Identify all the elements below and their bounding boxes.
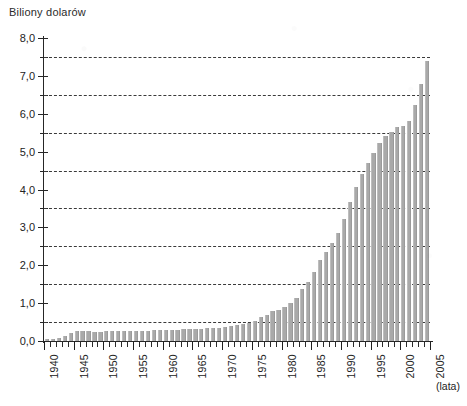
bar [110,331,114,341]
bar [377,143,381,341]
bar [330,243,334,341]
x-axis-tick-major [103,341,104,350]
bar [342,219,346,341]
x-axis-tick-minor [50,341,51,347]
x-axis-tick-minor [329,341,330,347]
x-axis-tick-major [44,341,45,350]
bar [294,298,298,341]
bar [158,330,162,341]
x-axis-tick-major [400,341,401,350]
bar [312,272,316,341]
bar [140,331,144,341]
bar [247,323,251,341]
bar [348,202,352,341]
y-axis-tick-label: 2,0 [1,259,35,271]
x-axis-tick-minor [68,341,69,347]
bar [324,252,328,341]
x-axis-tick-major [371,341,372,350]
x-axis-tick-label: 1990 [345,354,357,379]
x-axis-tick-minor [127,341,128,347]
x-axis-tick-minor [287,341,288,347]
x-axis-tick-minor [276,341,277,347]
x-axis-tick-label: 1995 [375,354,387,379]
bar [229,326,233,341]
x-axis-tick-minor [234,341,235,347]
x-axis-tick-minor [270,341,271,347]
x-axis-tick-minor [86,341,87,347]
x-axis-tick-major [133,341,134,350]
bar [276,310,280,341]
x-axis-tick-minor [121,341,122,347]
x-axis-tick-minor [264,341,265,347]
y-axis-tick-label: 7,0 [1,70,35,82]
bar [175,330,179,341]
x-axis-tick-minor [169,341,170,347]
bar [205,328,209,341]
y-axis-tick-major [38,341,48,342]
bar [80,331,84,341]
x-axis-tick-minor [175,341,176,347]
bar [122,331,126,341]
bar [383,136,387,341]
bar [104,331,108,341]
x-axis-tick-minor [359,341,360,347]
x-axis-tick-label: 1940 [48,354,60,379]
plot-area [44,38,430,341]
bar [223,327,227,341]
x-axis-tick-label: 1950 [107,354,119,379]
bar [395,127,399,341]
bar [306,282,310,341]
bar [211,328,215,341]
bar [371,153,375,341]
bar [318,260,322,341]
bar [63,336,67,341]
x-axis-tick-label: 1955 [137,354,149,379]
bar [75,331,79,341]
x-axis-tick-label: 1985 [315,354,327,379]
x-axis-tick-minor [80,341,81,347]
x-axis-tick-minor [246,341,247,347]
x-axis-tick-minor [335,341,336,347]
x-axis-tick-major [163,341,164,350]
bar [413,105,417,341]
x-axis-tick-major [430,341,431,350]
bar [187,329,191,341]
y-axis-tick-label: 5,0 [1,146,35,158]
x-axis-tick-major [252,341,253,350]
bar [217,328,221,341]
bar [57,338,61,341]
x-axis-tick-minor [210,341,211,347]
bar [300,289,304,341]
bar [259,317,263,341]
bar [241,324,245,341]
bar [253,321,257,341]
y-axis-tick-label: 3,0 [1,221,35,233]
bar [366,163,370,341]
x-axis-tick-label: 1980 [286,354,298,379]
x-axis-tick-minor [145,341,146,347]
x-axis-tick-minor [198,341,199,347]
bar [134,331,138,341]
x-axis-tick-minor [406,341,407,347]
bar [282,307,286,341]
x-axis-tick-minor [424,341,425,347]
bar [69,333,73,341]
x-axis-tick-minor [216,341,217,347]
bar [389,132,393,341]
bar [235,325,239,341]
x-axis-tick-major [341,341,342,350]
x-axis-tick-minor [187,341,188,347]
y-axis-tick-label: 6,0 [1,108,35,120]
x-axis-tick-minor [62,341,63,347]
x-axis-tick-minor [299,341,300,347]
x-axis-tick-minor [365,341,366,347]
y-axis-tick-label: 8,0 [1,32,35,44]
bar [288,303,292,341]
y-axis-caption: Biliony dolarów [9,6,86,18]
x-axis-tick-minor [151,341,152,347]
x-axis-tick-label: 2005 [434,354,446,379]
x-axis-tick-minor [115,341,116,347]
x-axis-tick-minor [293,341,294,347]
bar [199,329,203,341]
x-axis-tick-minor [97,341,98,347]
